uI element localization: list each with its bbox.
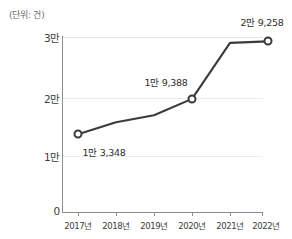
data-label-2020: 1만 9,388 (145, 75, 188, 89)
data-point-marker-2022[interactable] (264, 37, 273, 46)
data-point-marker-2017[interactable] (74, 130, 83, 139)
data-label-2022: 2만 9,258 (241, 15, 284, 29)
series-line (0, 0, 292, 239)
line-chart: (단위: 건) 3만 2만 1만 0 2017년 2018년 2019년 202… (0, 0, 292, 239)
data-point-marker-2020[interactable] (188, 94, 197, 103)
data-label-2017: 1만 3,348 (83, 145, 126, 159)
